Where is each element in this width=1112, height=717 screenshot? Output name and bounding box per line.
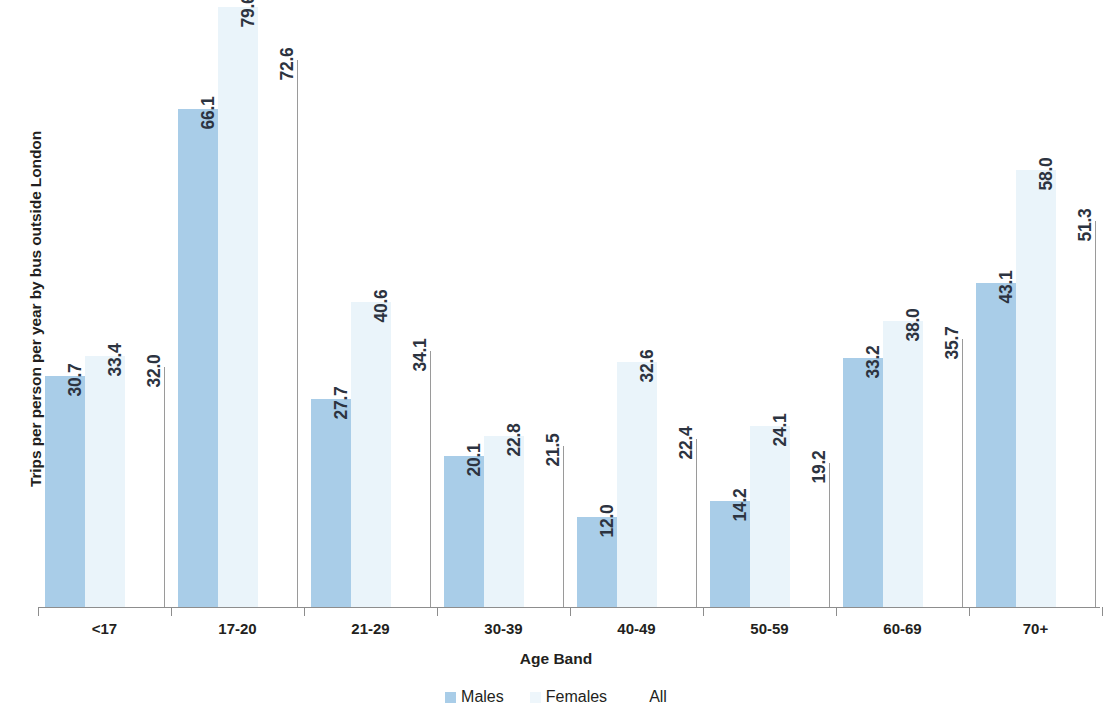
x-axis-tick <box>437 607 438 616</box>
bus-trips-bar-chart: Trips per person per year by bus outside… <box>0 0 1112 717</box>
x-axis-baseline <box>38 607 1100 608</box>
bar-value-label: 79.6 <box>238 0 259 28</box>
bar-group: 30.733.432.0 <box>38 4 171 608</box>
x-axis-tick <box>703 607 704 616</box>
bar-females-30-39: 22.8 <box>484 436 524 608</box>
chart-legend: MalesFemalesAll <box>0 688 1112 706</box>
x-axis-tick <box>38 607 39 616</box>
bar-value-label: 32.6 <box>637 350 658 383</box>
x-axis-tick <box>171 607 172 616</box>
bar-males-70plus: 43.1 <box>976 283 1016 608</box>
bar-males-17-20: 66.1 <box>178 109 218 608</box>
x-tick-label: 30-39 <box>437 620 570 637</box>
bar-value-label: 21.5 <box>543 433 564 466</box>
bar-males-under17: 30.7 <box>45 376 85 608</box>
bar-males-30-39: 20.1 <box>444 456 484 608</box>
bar-value-label: 35.7 <box>942 326 963 359</box>
bar-value-label: 20.1 <box>464 444 485 477</box>
legend-swatch-icon <box>633 692 644 703</box>
x-tick-label: 70+ <box>969 620 1102 637</box>
x-axis-tick <box>570 607 571 616</box>
bar-all-50-59: 19.2 <box>790 463 830 608</box>
bar-value-label: 40.6 <box>371 289 392 322</box>
bar-group: 66.179.672.6 <box>171 4 304 608</box>
bar-females-under17: 33.4 <box>85 356 125 608</box>
bar-all-70plus: 51.3 <box>1056 221 1096 608</box>
bar-value-label: 12.0 <box>597 505 618 538</box>
bar-value-label: 66.1 <box>198 97 219 130</box>
legend-item-males[interactable]: Males <box>445 688 504 706</box>
x-tick-label: 40-49 <box>570 620 703 637</box>
x-axis-title: Age Band <box>0 650 1112 668</box>
bar-all-30-39: 21.5 <box>524 446 564 608</box>
bar-females-17-20: 79.6 <box>218 7 258 608</box>
x-tick-label: 21-29 <box>304 620 437 637</box>
bar-value-label: 58.0 <box>1036 158 1057 191</box>
bar-group: 43.158.051.3 <box>969 4 1102 608</box>
legend-swatch-icon <box>445 692 456 703</box>
bar-all-40-49: 22.4 <box>657 439 697 608</box>
bar-value-label: 27.7 <box>331 387 352 420</box>
bar-females-60-69: 38.0 <box>883 321 923 608</box>
x-axis-tick <box>1102 607 1103 616</box>
bar-value-label: 22.4 <box>676 427 697 460</box>
bar-group: 20.122.821.5 <box>437 4 570 608</box>
x-axis-tick <box>969 607 970 616</box>
bar-value-label: 33.2 <box>863 345 884 378</box>
bar-females-50-59: 24.1 <box>750 426 790 608</box>
bar-value-label: 51.3 <box>1075 209 1096 242</box>
bar-value-label: 32.0 <box>144 354 165 387</box>
bar-value-label: 34.1 <box>410 338 431 371</box>
legend-swatch-icon <box>530 692 541 703</box>
bar-value-label: 38.0 <box>903 309 924 342</box>
x-tick-label: 17-20 <box>171 620 304 637</box>
bar-value-label: 24.1 <box>770 414 791 447</box>
bar-value-label: 14.2 <box>730 488 751 521</box>
bar-females-40-49: 32.6 <box>617 362 657 608</box>
bar-males-60-69: 33.2 <box>843 358 883 608</box>
x-axis-tick <box>304 607 305 616</box>
bar-value-label: 33.4 <box>105 344 126 377</box>
legend-item-all[interactable]: All <box>633 688 667 706</box>
bar-males-21-29: 27.7 <box>311 399 351 608</box>
bar-value-label: 22.8 <box>504 424 525 457</box>
bar-value-label: 72.6 <box>277 48 298 81</box>
bar-group: 27.740.634.1 <box>304 4 437 608</box>
bar-all-60-69: 35.7 <box>923 339 963 608</box>
bar-all-under17: 32.0 <box>125 367 165 608</box>
x-tick-label: 50-59 <box>703 620 836 637</box>
x-axis-tick <box>836 607 837 616</box>
bar-all-17-20: 72.6 <box>258 60 298 608</box>
legend-label: All <box>649 688 667 706</box>
bar-group: 14.224.119.2 <box>703 4 836 608</box>
bar-value-label: 30.7 <box>65 364 86 397</box>
legend-label: Males <box>461 688 504 706</box>
bar-males-40-49: 12.0 <box>577 517 617 608</box>
bar-value-label: 19.2 <box>809 451 830 484</box>
legend-label: Females <box>546 688 607 706</box>
bar-group: 12.032.622.4 <box>570 4 703 608</box>
bar-group: 33.238.035.7 <box>836 4 969 608</box>
plot-area: 30.733.432.066.179.672.627.740.634.120.1… <box>38 4 1102 608</box>
bar-males-50-59: 14.2 <box>710 501 750 608</box>
bar-females-21-29: 40.6 <box>351 302 391 608</box>
bar-females-70plus: 58.0 <box>1016 170 1056 608</box>
x-tick-label: 60-69 <box>836 620 969 637</box>
x-tick-label: <17 <box>38 620 171 637</box>
bar-all-21-29: 34.1 <box>391 351 431 608</box>
legend-item-females[interactable]: Females <box>530 688 607 706</box>
bar-value-label: 43.1 <box>996 270 1017 303</box>
